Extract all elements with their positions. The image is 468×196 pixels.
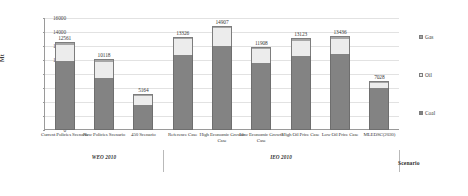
legend-item-coal[interactable]: Coal	[419, 110, 435, 116]
bar-segment-oil[interactable]	[330, 39, 350, 55]
bar-segment-oil[interactable]	[94, 62, 114, 78]
bar-segment-oil[interactable]	[251, 49, 271, 63]
bar-series-container: 1256110118516413326149071190813123134367…	[45, 18, 399, 130]
stacked-bar[interactable]	[212, 26, 232, 130]
bar-segment-oil[interactable]	[291, 41, 311, 56]
bar-value-label: 12561	[45, 35, 84, 41]
x-axis-group-bands: WEO 2010IEO 2010	[45, 150, 399, 172]
stacked-bar[interactable]	[251, 47, 271, 130]
bar-segment-coal[interactable]	[330, 54, 350, 130]
legend-label: Coal	[425, 110, 435, 116]
bar-segment-coal[interactable]	[173, 55, 193, 130]
stacked-bar[interactable]	[369, 81, 389, 130]
stacked-bar[interactable]	[55, 42, 75, 130]
bar-segment-coal[interactable]	[251, 63, 271, 130]
bar-value-label: 11908	[242, 40, 281, 46]
stacked-bar[interactable]	[173, 37, 193, 130]
bar-value-label: 5164	[124, 87, 163, 93]
bar-segment-coal[interactable]	[133, 105, 153, 130]
legend-swatch-coal-icon	[419, 111, 423, 115]
bar-segment-oil[interactable]	[173, 39, 193, 55]
stacked-bar[interactable]	[133, 94, 153, 130]
bar-segment-coal[interactable]	[291, 56, 311, 130]
group-band-separator	[163, 150, 164, 172]
bar-value-label: 13326	[163, 30, 202, 36]
group-band-label: WEO 2010	[74, 154, 134, 160]
legend-item-gas[interactable]: Gas	[419, 34, 433, 40]
bar-segment-oil[interactable]	[55, 45, 75, 62]
x-axis-category-label: MLEDSC(2030)	[355, 132, 403, 138]
bar-value-label: 14907	[202, 19, 241, 25]
legend-label: Oil	[425, 72, 432, 78]
bar-value-label: 10118	[84, 52, 123, 58]
stacked-bar[interactable]	[291, 38, 311, 130]
bar-segment-coal[interactable]	[369, 88, 389, 130]
bar-segment-oil[interactable]	[212, 28, 232, 46]
bar-value-label: 13123	[281, 31, 320, 37]
x-axis-title: Scenario	[398, 160, 420, 166]
bar-segment-coal[interactable]	[94, 78, 114, 130]
bar-segment-coal[interactable]	[55, 61, 75, 130]
bar-segment-coal[interactable]	[212, 46, 232, 130]
legend-label: Gas	[425, 34, 433, 40]
stacked-bar-chart: Mt 0200040006000800010000120001400016000…	[0, 0, 468, 196]
group-band-label: IEO 2010	[251, 154, 311, 160]
bar-value-label: 13436	[320, 29, 359, 35]
y-axis-title: Mt	[0, 54, 5, 62]
stacked-bar[interactable]	[330, 36, 350, 130]
stacked-bar[interactable]	[94, 59, 114, 130]
bar-segment-oil[interactable]	[133, 96, 153, 105]
legend-swatch-gas-icon	[419, 35, 423, 39]
legend-item-oil[interactable]: Oil	[419, 72, 432, 78]
bar-value-label: 7028	[360, 74, 399, 80]
legend-swatch-oil-icon	[419, 73, 423, 77]
